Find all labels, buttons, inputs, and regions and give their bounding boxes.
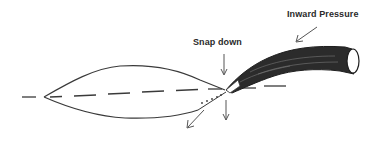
snapped-leaf-line [198, 92, 226, 110]
stem-cut-end [347, 49, 359, 73]
diagram-svg [0, 0, 382, 143]
inward-pressure-arrow [296, 27, 317, 42]
snap-down-label: Snap down [193, 37, 242, 47]
snap-dotted-line [201, 94, 222, 104]
stem-dark-curve [226, 46, 354, 93]
inward-pressure-label: Inward Pressure [287, 9, 359, 19]
diagram-canvas: Inward Pressure Snap down [0, 0, 382, 143]
leaf-outline [44, 66, 225, 119]
snap-down-arrow [221, 54, 227, 75]
down-arrow [223, 100, 229, 120]
